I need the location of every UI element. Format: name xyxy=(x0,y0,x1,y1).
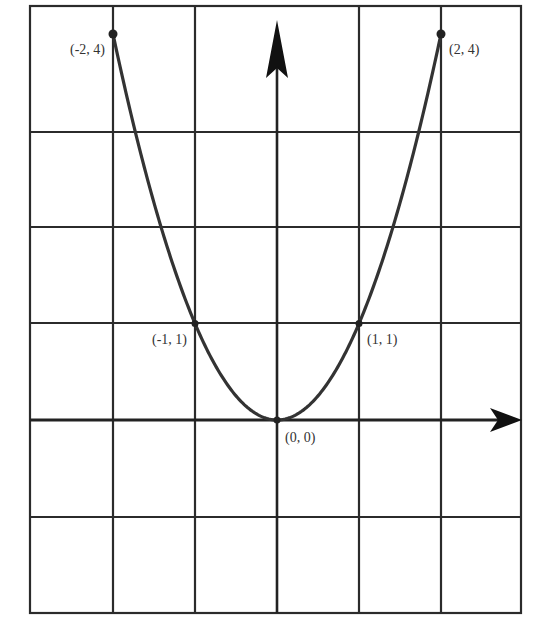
point-label: (-2, 4) xyxy=(70,42,105,58)
data-point xyxy=(437,30,446,39)
point-label: (0, 0) xyxy=(285,430,316,446)
point-label: (2, 4) xyxy=(449,42,480,58)
data-point xyxy=(274,417,281,424)
data-point xyxy=(109,30,118,39)
parabola-chart: (-2, 4)(2, 4)(-1, 1)(1, 1)(0, 0) xyxy=(0,0,546,644)
grid xyxy=(30,6,521,613)
point-label: (-1, 1) xyxy=(152,332,187,348)
data-point xyxy=(356,320,363,327)
point-labels: (-2, 4)(2, 4)(-1, 1)(1, 1)(0, 0) xyxy=(70,42,480,446)
point-label: (1, 1) xyxy=(367,332,398,348)
grid-border xyxy=(30,6,521,613)
axes xyxy=(30,40,500,613)
data-point xyxy=(192,320,199,327)
